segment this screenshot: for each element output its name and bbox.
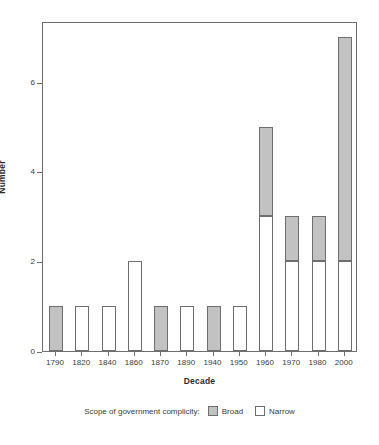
legend-swatch-broad (208, 406, 218, 416)
bar-segment-broad-1940[interactable] (207, 306, 221, 351)
legend-label-broad: Broad (222, 407, 243, 416)
legend-swatch-narrow (255, 406, 265, 416)
bar-segment-narrow-1860[interactable] (128, 261, 142, 351)
bar-segment-broad-1960[interactable] (259, 127, 273, 217)
x-tick-1840 (108, 352, 109, 356)
bar-segment-narrow-1890[interactable] (180, 306, 194, 351)
legend-label-narrow: Narrow (269, 407, 295, 416)
y-tick-label-2: 2 (31, 258, 35, 266)
bars-layer (43, 23, 356, 351)
y-tick-label-0: 0 (31, 348, 35, 356)
bar-segment-narrow-1980[interactable] (312, 261, 326, 351)
y-tick-label-4: 4 (31, 168, 35, 176)
bar-segment-broad-1870[interactable] (154, 306, 168, 351)
x-tick-1820 (81, 352, 82, 356)
y-axis-title: Number (0, 160, 7, 193)
x-tick-1870 (160, 352, 161, 356)
x-tick-1790 (55, 352, 56, 356)
bar-segment-narrow-1970[interactable] (285, 261, 299, 351)
x-tick-label-2000: 2000 (329, 358, 359, 367)
x-tick-1890 (186, 352, 187, 356)
legend-entries: BroadNarrow (208, 406, 295, 416)
legend-title: Scope of government complicity: (84, 407, 200, 416)
bar-segment-narrow-1950[interactable] (233, 306, 247, 351)
x-tick-1960 (265, 352, 266, 356)
y-tick-label-6: 6 (31, 79, 35, 87)
x-tick-1950 (239, 352, 240, 356)
legend-entry-narrow[interactable]: Narrow (255, 406, 295, 416)
bar-segment-broad-2000[interactable] (338, 37, 352, 261)
plot-area (42, 22, 357, 352)
y-axis: Number 0246 (0, 0, 42, 352)
bar-segment-broad-1790[interactable] (49, 306, 63, 351)
x-axis-title: Decade (42, 376, 357, 386)
bar-segment-broad-1980[interactable] (312, 216, 326, 261)
x-axis: 1790182018401860187018901940195019601970… (42, 352, 357, 392)
bar-segment-narrow-1820[interactable] (75, 306, 89, 351)
x-tick-1970 (291, 352, 292, 356)
x-tick-1940 (213, 352, 214, 356)
bar-segment-narrow-1960[interactable] (259, 216, 273, 351)
x-tick-1860 (134, 352, 135, 356)
bar-segment-broad-1970[interactable] (285, 216, 299, 261)
x-tick-1980 (318, 352, 319, 356)
chart-figure: Number 0246 1790182018401860187018901940… (0, 0, 379, 445)
bar-segment-narrow-1840[interactable] (102, 306, 116, 351)
bar-segment-narrow-2000[interactable] (338, 261, 352, 351)
legend-entry-broad[interactable]: Broad (208, 406, 243, 416)
chart-legend: Scope of government complicity: BroadNar… (0, 406, 379, 416)
x-tick-2000 (344, 352, 345, 356)
